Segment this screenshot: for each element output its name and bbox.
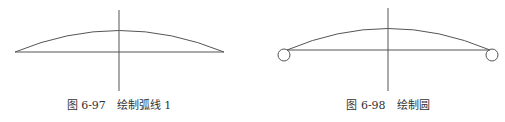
figure-6-98: [278, 8, 498, 91]
figure-6-97: [15, 10, 224, 91]
caption-fig-6-97: 图 6-97 绘制弧线 1: [67, 96, 172, 112]
circle-left: [278, 49, 290, 61]
caption-fig-6-98: 图 6-98 绘制圆: [346, 96, 429, 112]
circle-right: [486, 49, 498, 61]
